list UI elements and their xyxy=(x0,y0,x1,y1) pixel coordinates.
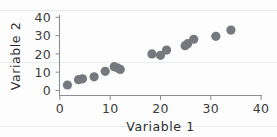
x-tick-label-10: 10 xyxy=(102,101,119,116)
y-axis-title: Variable 2 xyxy=(8,22,23,91)
data-point xyxy=(101,67,110,76)
y-tick-label-20: 20 xyxy=(34,47,51,62)
y-tick-label-40: 40 xyxy=(34,10,51,25)
data-point xyxy=(162,45,171,54)
plot-area: 0 10 20 30 40 0 10 20 30 40 Variable 1 V… xyxy=(0,0,277,137)
data-point xyxy=(189,35,198,44)
scatter-chart-figure: 0 10 20 30 40 0 10 20 30 40 Variable 1 V… xyxy=(0,0,277,137)
data-point xyxy=(78,74,87,83)
x-tick-label-30: 30 xyxy=(203,101,220,116)
x-tick-label-40: 40 xyxy=(253,101,270,116)
x-tick-label-20: 20 xyxy=(152,101,169,116)
data-point xyxy=(211,32,220,41)
data-point xyxy=(116,65,125,74)
x-tick-label-0: 0 xyxy=(56,101,64,116)
data-point xyxy=(147,49,156,58)
y-tick-label-30: 30 xyxy=(34,28,51,43)
data-point xyxy=(90,72,99,81)
y-tick-label-0: 0 xyxy=(43,83,51,98)
y-axis-ticks xyxy=(56,17,60,90)
x-axis-ticks xyxy=(60,96,261,101)
scatter-points-group xyxy=(63,26,236,90)
data-point xyxy=(226,26,235,35)
x-axis-title: Variable 1 xyxy=(126,119,195,134)
data-point xyxy=(63,80,72,89)
y-tick-label-10: 10 xyxy=(34,65,51,80)
